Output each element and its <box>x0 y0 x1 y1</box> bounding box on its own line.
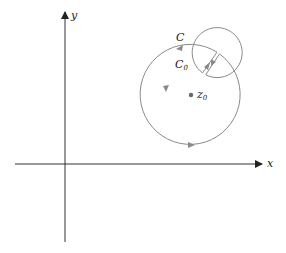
arrow-outer-bottom-icon <box>188 142 195 148</box>
contour-diagram: x y z0 C C0 <box>0 0 286 253</box>
arrow-inner-left-icon <box>163 85 169 92</box>
outer-curve-label: C <box>176 31 185 44</box>
y-axis-label: y <box>70 9 78 22</box>
x-axis-label: x <box>267 157 274 170</box>
point-z0-label: z0 <box>196 88 208 102</box>
diagram-canvas: x y z0 C C0 <box>0 0 286 253</box>
point-z0 <box>189 93 193 97</box>
inner-curve-label: C0 <box>175 58 188 72</box>
